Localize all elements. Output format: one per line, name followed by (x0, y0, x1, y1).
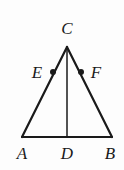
vertex-label-C: C (61, 20, 72, 37)
vertex-label-D: D (61, 145, 73, 162)
point-F-dot (78, 69, 84, 75)
vertex-label-B: B (105, 145, 115, 162)
vertex-label-F: F (91, 64, 101, 81)
point-E-dot (50, 69, 56, 75)
vertex-label-A: A (17, 145, 27, 162)
vertex-label-E: E (32, 64, 42, 81)
side-CB-line (67, 47, 112, 137)
side-AC-line (22, 47, 67, 137)
geometry-figure-canvas: C E F A D B (0, 0, 124, 170)
